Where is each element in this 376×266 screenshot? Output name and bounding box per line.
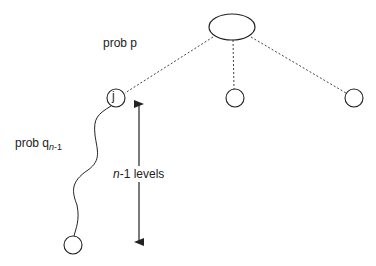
prob-q-sub-rest: -1 [54, 142, 62, 152]
levels-label: n-1 levels [113, 166, 164, 182]
levels-rest: -1 levels [120, 167, 165, 181]
prob-q-label: prob qn-1 [15, 136, 62, 152]
levels-n: n [113, 167, 120, 181]
prob-q-subscript: n-1 [49, 142, 62, 152]
node-middle [226, 89, 244, 107]
prob-p-label: prob p [103, 36, 137, 50]
node-right [345, 89, 363, 107]
node-leaf [64, 236, 82, 254]
node-j [107, 89, 125, 107]
node-j-label: j [112, 89, 115, 103]
edge-root-j [125, 37, 213, 93]
edge-root-middle [233, 40, 234, 89]
root-node [209, 14, 255, 40]
edge-root-right [251, 37, 346, 93]
tree-diagram [0, 0, 376, 266]
prob-q-base: prob q [15, 136, 49, 150]
wavy-path [74, 106, 111, 236]
